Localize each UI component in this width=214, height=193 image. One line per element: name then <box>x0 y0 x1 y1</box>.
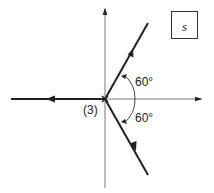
angle-arc-upper <box>124 75 135 99</box>
angle-label-lower: 60° <box>135 112 153 124</box>
angle-label-upper: 60° <box>135 76 153 88</box>
s-plane-label: s <box>172 19 197 35</box>
pole-multiplicity-label: (3) <box>83 104 98 116</box>
s-plane-box: s <box>171 11 198 39</box>
angle-arc-lower <box>124 99 135 123</box>
arrow-icon <box>46 96 55 103</box>
